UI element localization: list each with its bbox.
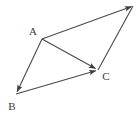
vector-parallelogram-diagram: A B C bbox=[0, 0, 137, 114]
vertex-label-c: C bbox=[102, 70, 109, 82]
diagram-background bbox=[0, 0, 137, 114]
vertex-label-a: A bbox=[29, 25, 37, 37]
vertex-label-b: B bbox=[8, 100, 15, 112]
